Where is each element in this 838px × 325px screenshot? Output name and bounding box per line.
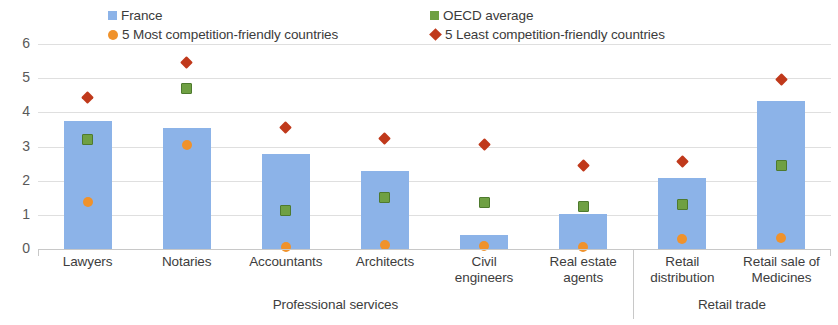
x-axis-label-architects: Architects (335, 254, 434, 270)
x-axis-label-retail-distribution: Retaildistribution (633, 254, 732, 286)
x-axis-left-edge (38, 250, 39, 256)
legend-item-oecd-average: OECD average (430, 8, 533, 23)
marker-square-notaries (181, 83, 192, 94)
legend-label-most-friendly: 5 Most competition-friendly countries (122, 27, 338, 42)
chart-container: France OECD average 5 Most competition-f… (0, 0, 838, 325)
marker-circle-notaries (182, 140, 192, 150)
x-axis-label-line: engineers (435, 270, 534, 286)
x-axis-groups: Professional servicesRetail trade (38, 293, 831, 323)
y-axis-tick-label: 5 (4, 70, 30, 84)
x-axis-group-label-retail-trade: Retail trade (633, 297, 831, 312)
bar-accountants (262, 154, 310, 249)
y-axis-tick-label: 3 (4, 139, 30, 153)
x-axis-label-line: Retail sale of (732, 254, 831, 270)
x-axis-right-edge (830, 250, 831, 256)
legend-swatch-oecd-icon (430, 11, 439, 20)
y-axis-tick-label: 0 (4, 241, 30, 255)
y-axis-tick-label: 1 (4, 207, 30, 221)
y-axis-tick-label: 4 (4, 104, 30, 118)
marker-square-lawyers (82, 134, 93, 145)
legend-swatch-france-icon (108, 11, 117, 20)
legend-swatch-least-friendly-icon (429, 28, 442, 41)
y-axis-tick-label: 6 (4, 36, 30, 50)
x-axis-categories: LawyersNotariesAccountantsArchitectsCivi… (38, 249, 831, 294)
marker-diamond-lawyers (81, 92, 94, 105)
gridline-6 (38, 44, 831, 45)
x-axis-label-lawyers: Lawyers (38, 254, 137, 270)
x-axis-label-line: Lawyers (38, 254, 137, 270)
marker-square-civil-engineers (479, 197, 490, 208)
plot-area (38, 44, 831, 249)
marker-circle-lawyers (83, 197, 93, 207)
legend-item-france: France (108, 8, 162, 23)
marker-diamond-civil-engineers (478, 138, 491, 151)
x-axis-label-line: Notaries (137, 254, 236, 270)
legend-label-france: France (121, 8, 162, 23)
x-axis-label-line: Medicines (732, 270, 831, 286)
x-axis-label-line: Civil (435, 254, 534, 270)
marker-square-real-estate-agents (578, 201, 589, 212)
y-axis-tick-label: 2 (4, 173, 30, 187)
marker-square-retail-sale-of-medicines (776, 160, 787, 171)
marker-diamond-notaries (180, 56, 193, 69)
x-axis-label-line: Architects (335, 254, 434, 270)
bar-retail-sale-of-medicines (757, 101, 805, 249)
marker-square-accountants (280, 205, 291, 216)
x-axis-label-line: Accountants (236, 254, 335, 270)
x-axis-group-label-professional-services: Professional services (38, 297, 633, 312)
legend-label-oecd-average: OECD average (443, 8, 533, 23)
chart-legend: France OECD average 5 Most competition-f… (0, 0, 838, 44)
gridline-5 (38, 78, 831, 79)
marker-square-retail-distribution (677, 199, 688, 210)
x-axis-label-real-estate-agents: Real estateagents (534, 254, 633, 286)
marker-diamond-retail-sale-of-medicines (775, 74, 788, 87)
x-axis-label-accountants: Accountants (236, 254, 335, 270)
legend-item-most-friendly: 5 Most competition-friendly countries (108, 27, 338, 42)
marker-diamond-retail-distribution (676, 155, 689, 168)
x-axis-label-line: agents (534, 270, 633, 286)
x-axis-label-civil-engineers: Civilengineers (435, 254, 534, 286)
marker-diamond-architects (379, 132, 392, 145)
gridline-3 (38, 147, 831, 148)
legend-label-least-friendly: 5 Least competition-friendly countries (445, 27, 665, 42)
x-axis-label-retail-sale-of-medicines: Retail sale ofMedicines (732, 254, 831, 286)
marker-square-architects (379, 192, 390, 203)
bar-architects (361, 171, 409, 249)
y-axis: 6543210 (0, 44, 32, 249)
legend-swatch-most-friendly-icon (108, 30, 118, 40)
legend-item-least-friendly: 5 Least competition-friendly countries (430, 27, 665, 42)
x-axis-group-separator (633, 293, 634, 319)
x-axis-label-line: distribution (633, 270, 732, 286)
gridline-4 (38, 112, 831, 113)
marker-diamond-accountants (279, 121, 292, 134)
x-axis-group-separator (633, 250, 634, 294)
x-axis-label-line: Real estate (534, 254, 633, 270)
marker-diamond-real-estate-agents (577, 159, 590, 172)
gridline-2 (38, 181, 831, 182)
gridline-1 (38, 215, 831, 216)
x-axis-label-notaries: Notaries (137, 254, 236, 270)
x-axis-label-line: Retail (633, 254, 732, 270)
